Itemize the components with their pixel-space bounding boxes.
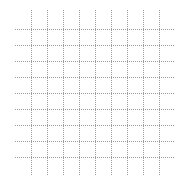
grid-background bbox=[0, 0, 185, 181]
dotted-grid bbox=[0, 0, 185, 181]
